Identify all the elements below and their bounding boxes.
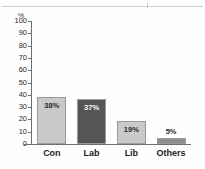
y-axis-tick-label: 20 bbox=[19, 115, 27, 123]
bar-group: 38% bbox=[37, 21, 66, 144]
bar-chart: % 1009080706050403020100 38%37%19%5% Con… bbox=[0, 12, 205, 169]
bar-group: 19% bbox=[117, 21, 146, 144]
bar[interactable] bbox=[157, 138, 186, 144]
bar-value-label: 19% bbox=[117, 125, 146, 134]
y-axis-tick-label: 70 bbox=[19, 54, 27, 62]
y-axis-tick-label: 30 bbox=[19, 103, 27, 111]
bar-group: 5% bbox=[157, 21, 186, 144]
y-axis-tick-labels: 1009080706050403020100 bbox=[0, 12, 31, 152]
chart-page: % 1009080706050403020100 38%37%19%5% Con… bbox=[0, 0, 205, 169]
y-axis-tick-label: 40 bbox=[19, 91, 27, 99]
y-axis-tick-label: 80 bbox=[19, 42, 27, 50]
y-axis-tick-label: 90 bbox=[19, 29, 27, 37]
bar-value-label: 37% bbox=[77, 103, 106, 112]
y-axis-tick-label: 60 bbox=[19, 66, 27, 74]
page-divider-tick bbox=[147, 3, 148, 8]
y-axis-tick-label: 10 bbox=[19, 128, 27, 136]
x-axis-category-label: Lib bbox=[112, 148, 152, 158]
x-axis-category-labels: ConLabLibOthers bbox=[32, 148, 191, 166]
page-divider-rule bbox=[2, 6, 203, 7]
x-axis-line bbox=[24, 144, 191, 145]
x-axis-category-label: Con bbox=[32, 148, 72, 158]
y-axis-tick-label: 50 bbox=[19, 79, 27, 87]
bar-value-label: 38% bbox=[37, 101, 66, 110]
y-axis-tick-label: 100 bbox=[14, 17, 27, 25]
bar-group: 37% bbox=[77, 21, 106, 144]
plot-area: 38%37%19%5% bbox=[32, 21, 191, 144]
bar-value-label: 5% bbox=[157, 127, 186, 136]
x-axis-category-label: Others bbox=[151, 148, 191, 158]
x-axis-category-label: Lab bbox=[72, 148, 112, 158]
